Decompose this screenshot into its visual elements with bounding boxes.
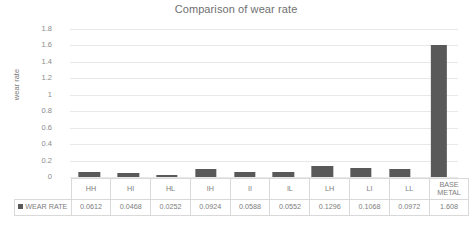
category-label-line: HI xyxy=(111,185,150,193)
category-label-line: IH xyxy=(191,185,230,193)
table-cell-value: 0.0924 xyxy=(190,200,230,216)
category-label-line: IL xyxy=(270,185,309,193)
y-tick-label: 1.2 xyxy=(12,74,52,82)
bar-slot xyxy=(264,29,303,177)
table-cell-category: II xyxy=(230,179,270,200)
bar-slot xyxy=(419,29,458,177)
bar[interactable] xyxy=(312,166,333,177)
table-cell-value: 0.0468 xyxy=(111,200,151,216)
table-cell-category: HL xyxy=(151,179,191,200)
bar[interactable] xyxy=(430,45,446,177)
table-cell-value: 0.0252 xyxy=(151,200,191,216)
table-cell-value: 0.1296 xyxy=(310,200,350,216)
bar-slot xyxy=(380,29,419,177)
table-cell-category: HI xyxy=(111,179,151,200)
square-marker-icon xyxy=(18,204,23,209)
category-label-line: LI xyxy=(350,185,389,193)
bar-slot xyxy=(186,29,225,177)
category-label-line: II xyxy=(231,185,270,193)
category-label-line: HH xyxy=(72,185,111,193)
table-cell-value: 0.1068 xyxy=(350,200,390,216)
bar-slot xyxy=(303,29,342,177)
table-cell-category: LI xyxy=(350,179,390,200)
category-label-line: LL xyxy=(390,185,429,193)
bar[interactable] xyxy=(79,172,100,177)
y-tick-label: 0.8 xyxy=(12,107,52,115)
category-label-line: HL xyxy=(151,185,190,193)
legend-cell[interactable]: WEAR RATE xyxy=(15,200,72,216)
table-corner-blank xyxy=(15,179,72,200)
bar[interactable] xyxy=(389,169,410,177)
category-label-line: LH xyxy=(310,185,349,193)
y-tick-label: 1.6 xyxy=(12,41,52,49)
bar[interactable] xyxy=(273,172,294,177)
chart-title: Comparison of wear rate xyxy=(0,3,472,15)
table-cell-category: LH xyxy=(310,179,350,200)
bar[interactable] xyxy=(156,175,177,178)
table-cell-value: 0.0972 xyxy=(389,200,429,216)
category-label-line: METAL xyxy=(430,189,469,197)
bar[interactable] xyxy=(234,172,255,177)
bar-slot xyxy=(70,29,109,177)
bar[interactable] xyxy=(350,168,371,177)
table-row-categories: HHHIHLIHIIILLHLILLBASEMETAL xyxy=(15,179,469,200)
y-tick-label: 1 xyxy=(12,91,52,99)
y-tick-label: 1.4 xyxy=(12,58,52,66)
bar-slot xyxy=(109,29,148,177)
bars-layer xyxy=(70,29,458,177)
table-cell-category: IL xyxy=(270,179,310,200)
table-cell-value: 1.608 xyxy=(429,200,469,216)
y-tick-label: 1.8 xyxy=(12,25,52,33)
table-cell-value: 0.0588 xyxy=(230,200,270,216)
plot-area: 1.81.61.41.210.80.60.40.20 xyxy=(70,29,458,177)
table-cell-value: 0.0612 xyxy=(71,200,111,216)
table-row-values: WEAR RATE 0.06120.04680.02520.09240.0588… xyxy=(15,200,469,216)
table-cell-category: LL xyxy=(389,179,429,200)
table-cell-category: BASEMETAL xyxy=(429,179,469,200)
table-cell-category: HH xyxy=(71,179,111,200)
wear-rate-bar-chart: Comparison of wear rate wear rate 1.81.6… xyxy=(0,0,472,228)
legend-series-label: WEAR RATE xyxy=(25,203,67,211)
y-tick-label: 0.6 xyxy=(12,124,52,132)
table-cell-category: IH xyxy=(190,179,230,200)
y-tick-label: 0.2 xyxy=(12,157,52,165)
data-table: HHHIHLIHIIILLHLILLBASEMETAL WEAR RATE 0.… xyxy=(14,178,469,216)
bar-slot xyxy=(148,29,187,177)
table-cell-value: 0.0552 xyxy=(270,200,310,216)
bar[interactable] xyxy=(195,169,216,177)
bar[interactable] xyxy=(118,173,139,177)
bar-slot xyxy=(342,29,381,177)
y-tick-label: 0.4 xyxy=(12,140,52,148)
bar-slot xyxy=(225,29,264,177)
